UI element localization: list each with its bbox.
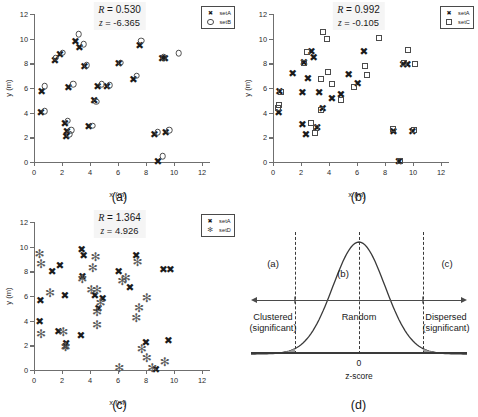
z-value-c: = 4.926 — [107, 225, 139, 236]
marker-x: ✖ — [301, 128, 310, 139]
marker-square — [312, 130, 318, 136]
marker-x: ✖ — [208, 218, 213, 224]
y-tick-label: 10 — [20, 242, 28, 251]
legend-label: setA — [219, 10, 231, 16]
plot-area-c: ✖✖✖✖✖✖✖✖✖✖✖✖✖✖✖✖✖✖✖✖✖✖✖✻✻✻✻✻✻✻✻✻✻✻✻✻✻✻✻✻… — [34, 222, 202, 370]
x-tick-label: 2 — [60, 376, 64, 385]
dispersed-label-line1: Dispersed — [423, 312, 470, 323]
legend-label: setA — [219, 218, 231, 224]
marker-circle — [155, 129, 162, 136]
legend-label: setC — [458, 19, 470, 25]
x-tick — [273, 162, 274, 166]
y-tick — [30, 39, 34, 40]
zero-tick-label: 0 — [357, 358, 362, 368]
marker-square — [397, 158, 403, 164]
stats-annotation-a: R = 0.530 z = -6.365 — [93, 2, 146, 30]
y-tick — [30, 321, 34, 322]
x-tick-label: 10 — [409, 168, 417, 177]
legend-b: ✖setAsetC — [440, 6, 474, 29]
y-tick-label: 2 — [263, 133, 267, 142]
y-tick — [30, 222, 34, 223]
x-tick — [174, 370, 175, 374]
zscore-diagram: (a) (b) (c) Clustered (significant) Rand… — [251, 230, 467, 380]
legend-key: ✖ — [205, 10, 215, 16]
marker-asterisk: ✻ — [95, 297, 105, 309]
x-tick — [202, 162, 203, 166]
marker-circle — [90, 122, 97, 129]
x-tick — [118, 162, 119, 166]
marker-circle — [207, 19, 214, 26]
marker-circle — [106, 82, 113, 89]
marker-x: ✖ — [35, 315, 44, 326]
x-tick-label: 12 — [198, 376, 206, 385]
x-tick — [413, 162, 414, 166]
legend-key: ✖ — [205, 218, 215, 224]
y-tick-label: 12 — [20, 10, 28, 19]
y-tick-label: 4 — [24, 108, 28, 117]
marker-square — [304, 49, 310, 55]
legend-c: ✖setA✻setD — [201, 214, 235, 237]
x-tick-label: 8 — [383, 168, 387, 177]
y-tick-label: 8 — [263, 59, 267, 68]
r-value-c: = 1.364 — [107, 212, 141, 223]
x-tick — [34, 370, 35, 374]
x-tick — [146, 370, 147, 374]
y-tick-label: 10 — [259, 34, 267, 43]
x-tick-label: 0 — [32, 168, 36, 177]
legend-label: setB — [219, 19, 231, 25]
x-tick-label: 12 — [437, 168, 445, 177]
x-tick-label: 6 — [116, 168, 120, 177]
legend-row: ✖setA — [205, 217, 231, 225]
marker-square — [376, 35, 382, 41]
y-tick — [30, 271, 34, 272]
dispersed-label-line2: (significant) — [423, 323, 470, 334]
panel-c: ✖✖✖✖✖✖✖✖✖✖✖✖✖✖✖✖✖✖✖✖✖✖✖✻✻✻✻✻✻✻✻✻✻✻✻✻✻✻✻✻… — [0, 208, 239, 417]
y-axis-a — [34, 14, 35, 162]
x-tick — [118, 370, 119, 374]
legend-row: ✖setA — [205, 9, 231, 17]
marker-x: ✖ — [304, 72, 313, 83]
y-tick-label: 8 — [24, 267, 28, 276]
marker-circle — [176, 50, 183, 57]
marker-asterisk: ✻ — [114, 362, 124, 374]
marker-asterisk: ✻ — [91, 251, 101, 263]
z-symbol-a: z — [99, 18, 103, 28]
z-symbol-c: z — [101, 226, 105, 236]
panel-d: (a) (b) (c) Clustered (significant) Rand… — [239, 208, 478, 417]
marker-circle — [59, 50, 66, 57]
marker-square — [329, 81, 335, 87]
marker-asterisk: ✻ — [92, 319, 102, 331]
x-tick — [202, 370, 203, 374]
marker-x: ✖ — [166, 264, 175, 275]
marker-square — [401, 60, 407, 66]
x-tick — [34, 162, 35, 166]
marker-x: ✖ — [298, 86, 307, 97]
x-tick — [329, 162, 330, 166]
marker-circle — [80, 41, 87, 48]
marker-circle — [138, 37, 145, 44]
threshold-line-right — [423, 232, 424, 354]
marker-x: ✖ — [76, 330, 85, 341]
x-tick-label: 2 — [299, 168, 303, 177]
x-tick-label: 0 — [32, 376, 36, 385]
y-tick-label: 12 — [259, 10, 267, 19]
legend-key — [444, 19, 454, 25]
x-tick — [357, 162, 358, 166]
x-tick — [301, 162, 302, 166]
panel-caption-a: (a) — [112, 190, 127, 204]
y-tick — [30, 137, 34, 138]
x-tick-label: 8 — [144, 376, 148, 385]
arrow-head-right-icon — [461, 297, 467, 303]
zscore-axis-label: z-score — [345, 371, 372, 381]
marker-circle — [134, 72, 141, 79]
plot-area-a: ✖✖✖✖✖✖✖✖✖✖✖✖✖✖✖✖✖✖✖✖✖✖✖ 0246810120246810… — [34, 14, 202, 162]
z-value-a: = -6.365 — [105, 17, 140, 28]
region-label-dispersed: Dispersed (significant) — [423, 312, 470, 334]
marker-asterisk: ✻ — [88, 262, 98, 274]
marker-x: ✖ — [360, 46, 369, 57]
marker-square — [325, 69, 331, 75]
marker-x: ✖ — [55, 259, 64, 270]
y-tick-label: 2 — [24, 341, 28, 350]
marker-asterisk: ✻ — [121, 272, 131, 284]
marker-x: ✖ — [164, 335, 173, 346]
